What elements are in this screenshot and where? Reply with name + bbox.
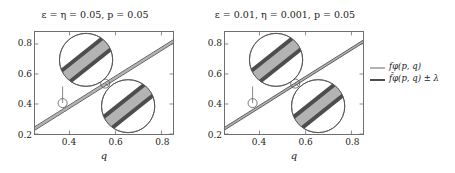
y-tick-label: 0.4 — [6, 99, 32, 109]
chart-panel-right: ε = 0.01, η = 0.001, p = 0.05 0.2 0.4 0.… — [190, 0, 380, 173]
y-tick-label: 0.2 — [196, 130, 222, 140]
x-tick-label: 0.4 — [56, 137, 82, 147]
panel-title-left: ε = η = 0.05, p = 0.05 — [0, 9, 190, 20]
panel-title-right: ε = 0.01, η = 0.001, p = 0.05 — [190, 9, 380, 20]
y-tick-label: 0.2 — [6, 130, 32, 140]
plot-area-right — [224, 31, 364, 135]
x-tick-label: 0.6 — [293, 137, 319, 147]
legend-swatch-icon — [370, 79, 385, 81]
plot-svg-left — [35, 32, 173, 134]
y-axis-ticks-right: 0.2 0.4 0.6 0.8 — [194, 31, 222, 135]
y-axis-ticks-left: 0.2 0.4 0.6 0.8 — [4, 31, 32, 135]
y-tick-label: 0.6 — [196, 69, 222, 79]
x-tick-label: 0.4 — [246, 137, 272, 147]
y-tick-label: 0.8 — [6, 38, 32, 48]
x-tick-label: 0.8 — [149, 137, 175, 147]
x-axis-title-right: q — [224, 150, 364, 161]
figure-two-panel-chart: ε = η = 0.05, p = 0.05 0.2 0.4 0.6 0.8 — [0, 0, 455, 173]
legend-label: fφ(p, q) — [389, 61, 421, 71]
x-axis-ticks-left: 0.4 0.6 0.8 — [34, 137, 174, 151]
x-axis-ticks-right: 0.4 0.6 0.8 — [224, 137, 364, 151]
plot-area-left — [34, 31, 174, 135]
y-tick-label: 0.8 — [196, 38, 222, 48]
y-tick-label: 0.6 — [6, 69, 32, 79]
y-tick-label: 0.4 — [196, 99, 222, 109]
legend: fφ(p, q) f̃φ(p, q) ± λ — [370, 62, 455, 90]
plot-svg-right — [225, 32, 363, 134]
chart-panel-left: ε = η = 0.05, p = 0.05 0.2 0.4 0.6 0.8 — [0, 0, 190, 173]
legend-item-f-tilde-phi: f̃φ(p, q) ± λ — [370, 74, 455, 86]
x-tick-label: 0.8 — [339, 137, 365, 147]
x-axis-title-left: q — [34, 150, 174, 161]
legend-label: f̃φ(p, q) ± λ — [389, 73, 439, 83]
x-tick-label: 0.6 — [103, 137, 129, 147]
legend-swatch-icon — [370, 67, 385, 69]
